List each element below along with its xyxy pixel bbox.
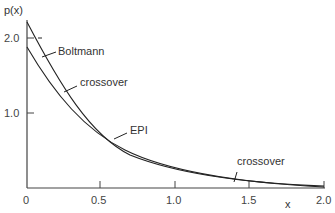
y-tick-label-2: 2.0 — [4, 32, 19, 44]
y-axis-label: p(x) — [4, 4, 23, 16]
crossover2-label: crossover — [237, 155, 285, 167]
x-tick-label-1: 1.0 — [166, 194, 181, 206]
crossover2-leader — [234, 172, 237, 182]
epi-leader — [114, 133, 127, 139]
crossover1-leader — [64, 86, 77, 92]
x-tick-label-15: 1.5 — [241, 194, 256, 206]
x-tick-label-0: 0 — [23, 194, 29, 206]
y-tick-label-1: 1.0 — [4, 107, 19, 119]
chart-canvas: 2.0 1.0 p(x) 0 0.5 1.0 1.5 2.0 x Boltman… — [0, 0, 335, 213]
x-axis-label: x — [285, 198, 291, 210]
crossover1-label: crossover — [80, 76, 128, 88]
x-tick-label-05: 0.5 — [91, 194, 106, 206]
boltmann-label: Boltmann — [58, 45, 104, 57]
epi-label: EPI — [130, 124, 148, 136]
x-tick-label-2: 2.0 — [316, 194, 331, 206]
